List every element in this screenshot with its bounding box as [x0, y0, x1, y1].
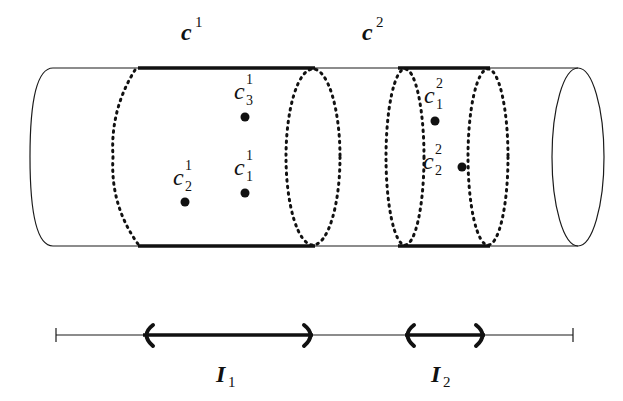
point-dot	[458, 163, 467, 172]
point-c1-2: c 2 1	[424, 76, 443, 126]
point-dot	[241, 113, 250, 122]
dotted-ellipse-c2-left	[386, 69, 424, 245]
svg-text:c: c	[424, 82, 435, 108]
dotted-ellipse-c2-right	[468, 69, 508, 245]
cylinder-right-cap	[552, 68, 604, 246]
svg-text:1: 1	[246, 169, 253, 184]
point-c2-1: c 1 2	[173, 158, 192, 207]
dotted-sections	[113, 69, 508, 245]
svg-text:2: 2	[185, 179, 192, 194]
svg-text:c: c	[423, 148, 434, 174]
interval-label-i2: I 2	[430, 361, 451, 390]
point-c1-1: c 1 1	[234, 148, 253, 198]
interval-i2	[405, 325, 485, 346]
svg-text:c: c	[173, 164, 184, 190]
svg-text:2: 2	[435, 142, 442, 157]
svg-text:1: 1	[228, 374, 236, 390]
point-dot	[431, 117, 440, 126]
cylinder-diagram: c 1 c 2 c 1 3 c 1 1 c 1 2 c 2 1 c 2 2	[0, 0, 623, 401]
cluster-segments	[138, 68, 490, 246]
cylinder-left-cap	[30, 68, 53, 246]
interval-i1	[143, 325, 313, 346]
svg-text:c: c	[234, 78, 245, 104]
cylinder	[30, 68, 604, 246]
svg-text:2: 2	[435, 163, 442, 178]
svg-text:c: c	[362, 19, 373, 45]
point-c2-2: c 2 2	[423, 142, 467, 178]
svg-text:I: I	[430, 361, 442, 387]
point-c3-1: c 1 3	[234, 72, 253, 122]
svg-text:2: 2	[376, 14, 384, 30]
point-dot	[181, 198, 190, 207]
svg-text:1: 1	[246, 72, 253, 87]
interval-label-i1: I 1	[215, 361, 236, 390]
svg-text:1: 1	[246, 148, 253, 163]
svg-text:2: 2	[436, 76, 443, 91]
svg-text:c: c	[181, 19, 192, 45]
svg-text:c: c	[234, 154, 245, 180]
cluster-label-c2: c 2	[362, 14, 384, 45]
interval-axis	[56, 328, 573, 342]
dotted-left-arc-c1	[113, 70, 138, 244]
svg-text:I: I	[215, 361, 227, 387]
svg-text:1: 1	[185, 158, 192, 173]
cluster-label-c1: c 1	[181, 14, 203, 45]
svg-text:3: 3	[246, 93, 253, 108]
dotted-ellipse-c1	[286, 69, 340, 245]
svg-text:1: 1	[195, 14, 203, 30]
svg-text:1: 1	[436, 97, 443, 112]
svg-text:2: 2	[443, 374, 451, 390]
point-dot	[241, 189, 250, 198]
